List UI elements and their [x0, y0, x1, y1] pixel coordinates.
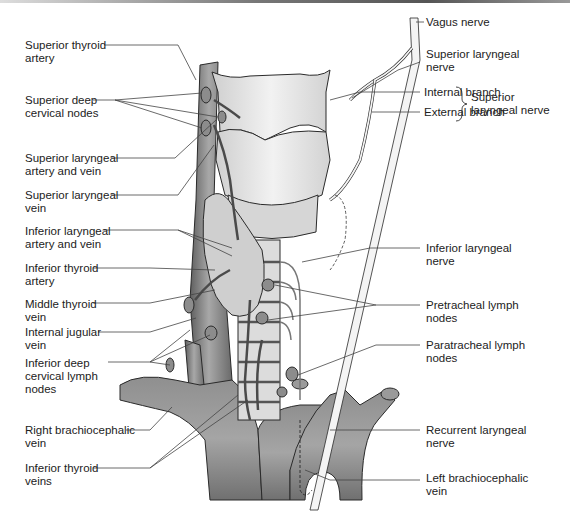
label-superior-deep-cervical-nodes: Superior deep cervical nodes	[25, 94, 99, 120]
label-inferior-laryngeal-nerve: Inferior laryngeal nerve	[426, 242, 512, 268]
label-superior-laryngeal-nerve-group: Superior laryngeal nerve	[471, 91, 550, 117]
label-superior-thyroid-artery: Superior thyroid artery	[25, 39, 106, 65]
label-left-brachiocephalic-vein: Left brachiocephalic vein	[426, 472, 528, 498]
label-right-brachiocephalic-vein: Right brachiocephalic vein	[25, 424, 135, 450]
label-internal-jugular-vein: Internal jugular vein	[25, 326, 101, 352]
label-recurrent-laryngeal-nerve: Recurrent laryngeal nerve	[426, 424, 526, 450]
label-middle-thyroid-vein: Middle thyroid vein	[25, 298, 97, 324]
label-inferior-deep-cervical-lymph-nodes: Inferior deep cervical lymph nodes	[25, 357, 98, 396]
label-inferior-thyroid-artery: Inferior thyroid artery	[25, 262, 99, 288]
label-superior-laryngeal-vein: Superior laryngeal vein	[25, 189, 118, 215]
label-inferior-thyroid-veins: Inferior thyroid veins	[25, 462, 99, 488]
label-superior-laryngeal-artery-vein: Superior laryngeal artery and vein	[25, 152, 118, 178]
label-paratracheal-lymph-nodes: Paratracheal lymph nodes	[426, 339, 525, 365]
label-vagus-nerve: Vagus nerve	[426, 16, 490, 29]
label-inferior-laryngeal-artery-vein: Inferior laryngeal artery and vein	[25, 225, 111, 251]
label-pretracheal-lymph-nodes: Pretracheal lymph nodes	[426, 299, 519, 325]
label-superior-laryngeal-nerve: Superior laryngeal nerve	[426, 48, 519, 74]
